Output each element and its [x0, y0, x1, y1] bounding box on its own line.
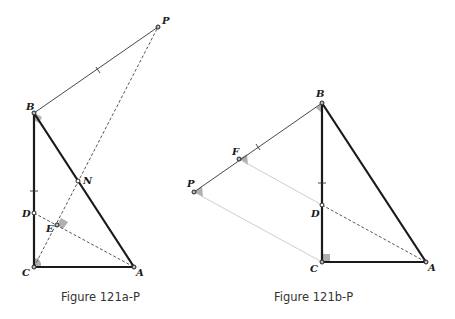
label-D: D	[21, 208, 31, 219]
caption-figure-121a: Figure 121a-P	[61, 290, 140, 304]
label-C: C	[22, 267, 30, 278]
label-P: P	[186, 178, 195, 189]
label-P: P	[161, 15, 170, 26]
point-B	[320, 101, 324, 105]
point-C	[32, 265, 36, 269]
label-F: F	[231, 146, 240, 157]
figure-121a: P B C A N D E	[21, 15, 170, 278]
segment-DA	[322, 205, 426, 262]
point-C	[320, 260, 324, 264]
point-P	[156, 25, 160, 29]
caption-figure-121b: Figure 121b-P	[274, 290, 353, 304]
segment-BP	[34, 27, 158, 113]
point-D	[320, 203, 324, 207]
segment-BA	[34, 113, 134, 267]
point-P	[192, 190, 196, 194]
segment-DA	[34, 213, 134, 267]
figure-121b: B C A D F P	[186, 88, 436, 274]
label-B: B	[315, 88, 324, 99]
label-A: A	[135, 267, 144, 278]
label-B: B	[25, 101, 34, 112]
segment-PC	[194, 192, 322, 262]
segment-FD	[239, 159, 322, 205]
label-D: D	[310, 208, 320, 219]
label-N: N	[82, 175, 93, 186]
geometry-diagram: P B C A N D E B C A D F P	[0, 0, 455, 319]
point-D	[32, 211, 36, 215]
segment-BA	[322, 103, 426, 262]
point-N	[76, 179, 80, 183]
point-F	[237, 157, 241, 161]
label-C: C	[310, 263, 318, 274]
point-E	[55, 223, 59, 227]
label-A: A	[427, 262, 436, 273]
label-E: E	[45, 223, 54, 234]
